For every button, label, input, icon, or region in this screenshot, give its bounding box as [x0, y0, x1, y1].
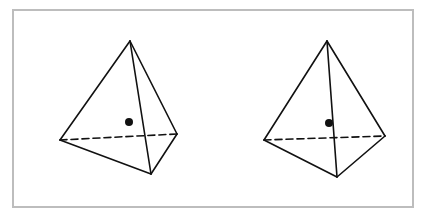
edge-apex-right [327, 41, 385, 136]
hidden-edge-left-right [264, 136, 385, 140]
diagram-frame [13, 10, 413, 207]
tetrahedron-left [60, 41, 177, 174]
point-dot [125, 118, 133, 126]
edge-right-bottom [151, 134, 177, 174]
edge-left-bottom [264, 140, 337, 177]
edge-apex-bottom [327, 41, 337, 177]
edge-right-bottom [337, 136, 385, 177]
diagram-canvas [0, 0, 427, 221]
tetrahedron-right [264, 41, 385, 177]
edge-apex-left [264, 41, 327, 140]
edge-left-bottom [60, 140, 151, 174]
point-dot [325, 119, 333, 127]
hidden-edge-left-right [60, 134, 177, 140]
edge-apex-left [60, 41, 130, 140]
